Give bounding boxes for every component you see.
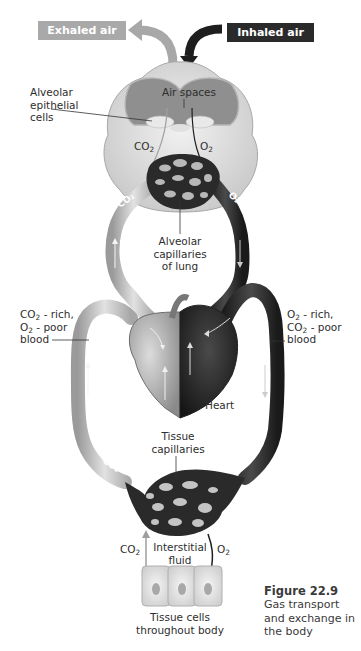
oxygenated-blood-label: O2 - rich, CO2 - poor blood (287, 308, 342, 346)
tissue-cells (142, 566, 222, 606)
heart-label: Heart (205, 399, 234, 412)
tissue-co2-label: CO2 (120, 543, 140, 556)
aorta (225, 290, 277, 478)
tissue-capillaries-label: Tissue capillaries (146, 430, 210, 455)
deoxygenated-blood-label: CO2 - rich, O2 - poor blood (20, 308, 74, 346)
alveolar-capillaries-label: Alveolar capillaries of lung (148, 235, 212, 273)
tissue-cells-label: Tissue cells throughout body (135, 611, 225, 636)
exhaled-air-arrow (128, 19, 173, 65)
alveolar-epithelial-label: Alveolar epithelial cells (30, 86, 78, 124)
exhaled-air-label: Exhaled air (38, 21, 126, 40)
lung-o2-label: O2 (200, 140, 213, 153)
tissue-capillary-net (125, 469, 245, 536)
interstitial-fluid-label: Interstitial fluid (150, 541, 210, 566)
vena-cava (78, 307, 131, 482)
inhaled-air-label: Inhaled air (227, 23, 314, 42)
air-spaces-label: Air spaces (162, 86, 216, 99)
figure-number: Figure 22.9 (264, 584, 355, 598)
lung-co2-label: CO2 (134, 140, 154, 153)
figure-caption: Figure 22.9 Gas transport and exchange i… (264, 584, 355, 639)
tissue-o2-label: O2 (217, 543, 230, 556)
